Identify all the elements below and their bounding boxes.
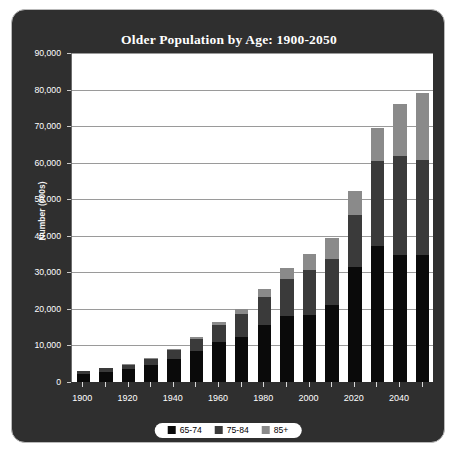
bar-2010 <box>325 238 339 382</box>
bar-segment-85+ <box>348 191 362 215</box>
y-axis-tick-label: 90,000 <box>1 48 61 58</box>
y-axis-tick-label: 60,000 <box>1 158 61 168</box>
bar-segment-75-84 <box>190 339 204 351</box>
x-axis-tick-mark <box>128 382 129 387</box>
bar-segment-65-74 <box>325 305 339 382</box>
y-axis-tick-mark <box>67 90 71 91</box>
y-axis-tick-label: 50,000 <box>1 194 61 204</box>
x-axis-tick-label: 2000 <box>286 393 332 403</box>
bar-segment-75-84 <box>212 325 226 342</box>
x-axis-tick-label: 1980 <box>240 393 286 403</box>
bar-2040 <box>393 104 407 382</box>
legend-swatch <box>168 426 176 434</box>
x-axis-tick-label: 1920 <box>105 393 151 403</box>
x-axis-tick-mark <box>263 382 264 387</box>
legend-label: 75-84 <box>227 426 249 435</box>
legend-swatch <box>262 426 270 434</box>
gridline <box>72 53 433 54</box>
plot-area <box>71 53 433 382</box>
bar-segment-75-84 <box>258 297 272 325</box>
x-axis-tick-mark <box>241 382 242 387</box>
bar-segment-75-84 <box>325 259 339 305</box>
bar-segment-75-84 <box>348 215 362 268</box>
y-axis-tick-mark <box>67 272 71 273</box>
bar-segment-85+ <box>371 128 385 160</box>
bar-segment-65-74 <box>348 267 362 382</box>
legend-item-85+: 85+ <box>262 426 289 435</box>
chart-title: Older Population by Age: 1900-2050 <box>12 32 446 48</box>
bar-segment-75-84 <box>303 270 317 315</box>
chart-panel: Older Population by Age: 1900-2050 Numbe… <box>11 9 445 443</box>
y-axis-tick-label: 30,000 <box>1 267 61 277</box>
bar-segment-65-74 <box>416 255 430 382</box>
y-axis-tick-mark <box>67 382 71 383</box>
bar-segment-65-74 <box>303 315 317 382</box>
legend-item-65-74: 65-74 <box>168 426 202 435</box>
y-axis-tick-label: 40,000 <box>1 231 61 241</box>
x-axis-tick-label: 2040 <box>376 393 422 403</box>
x-axis-tick-mark <box>376 382 377 387</box>
bar-segment-65-74 <box>99 372 113 382</box>
bar-1920 <box>122 364 136 382</box>
gridline <box>72 90 433 91</box>
x-axis-tick-label: 1960 <box>195 393 241 403</box>
bar-segment-85+ <box>416 93 430 160</box>
bar-1980 <box>258 289 272 382</box>
y-axis-tick-mark <box>67 126 71 127</box>
x-axis-tick-label: 1900 <box>59 393 105 403</box>
y-axis-tick-label: 70,000 <box>1 121 61 131</box>
chart-legend: 65-7475-8485+ <box>155 423 302 438</box>
bar-segment-75-84 <box>371 161 385 247</box>
y-axis-title: Number (000s) <box>37 151 47 271</box>
bar-segment-65-74 <box>371 246 385 382</box>
bar-segment-75-84 <box>393 156 407 255</box>
x-axis-tick-mark <box>150 382 151 387</box>
chart-figure: Older Population by Age: 1900-2050 Numbe… <box>0 0 456 453</box>
y-axis-tick-mark <box>67 53 71 54</box>
y-axis-tick-mark <box>67 199 71 200</box>
x-axis-tick-label: 2020 <box>331 393 377 403</box>
bar-segment-65-74 <box>122 369 136 382</box>
bar-segment-65-74 <box>190 351 204 382</box>
bar-1950 <box>190 337 204 382</box>
y-axis-tick-label: 20,000 <box>1 304 61 314</box>
bar-1930 <box>144 358 158 382</box>
x-axis-tick-mark <box>354 382 355 387</box>
x-axis-tick-mark <box>286 382 287 387</box>
bar-1970 <box>235 309 249 382</box>
bar-segment-85+ <box>303 254 317 270</box>
legend-swatch <box>215 426 223 434</box>
bar-1910 <box>99 368 113 382</box>
x-axis-tick-mark <box>82 382 83 387</box>
bar-segment-85+ <box>325 238 339 259</box>
bar-1960 <box>212 322 226 383</box>
x-axis-tick-mark <box>195 382 196 387</box>
x-axis-tick-mark <box>422 382 423 387</box>
bar-segment-85+ <box>393 104 407 156</box>
bar-2020 <box>348 191 362 382</box>
bar-1990 <box>280 268 294 382</box>
bar-2050 <box>416 93 430 382</box>
gridline <box>72 126 433 127</box>
bar-segment-65-74 <box>212 342 226 382</box>
bar-segment-65-74 <box>258 325 272 382</box>
bar-segment-65-74 <box>280 316 294 382</box>
y-axis-tick-mark <box>67 309 71 310</box>
bar-segment-65-74 <box>144 365 158 382</box>
bar-segment-65-74 <box>393 255 407 382</box>
x-axis-tick-mark <box>173 382 174 387</box>
x-axis-tick-mark <box>399 382 400 387</box>
bar-segment-75-84 <box>235 314 249 336</box>
x-axis-tick-mark <box>105 382 106 387</box>
x-axis-tick-label: 1940 <box>150 393 196 403</box>
bar-segment-75-84 <box>416 160 430 255</box>
y-axis-tick-label: 0 <box>1 377 61 387</box>
bar-segment-85+ <box>280 268 294 279</box>
y-axis-tick-label: 10,000 <box>1 340 61 350</box>
bar-segment-65-74 <box>77 374 91 382</box>
bar-1940 <box>167 349 181 382</box>
legend-item-75-84: 75-84 <box>215 426 249 435</box>
x-axis <box>71 382 433 392</box>
y-axis-tick-label: 80,000 <box>1 85 61 95</box>
bar-segment-65-74 <box>235 337 249 383</box>
